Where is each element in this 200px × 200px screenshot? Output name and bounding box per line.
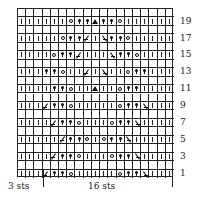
knit-icon: [79, 86, 80, 91]
chart-cell: [100, 110, 108, 118]
chart-cell: [75, 136, 83, 144]
chart-cell: [43, 127, 51, 135]
chart-cell: [133, 153, 141, 161]
chart-cell: [133, 34, 141, 42]
chart-cell: [141, 170, 149, 178]
edge-stitch-label: 3 sts: [8, 181, 29, 191]
chart-cell: [34, 136, 42, 144]
chart-cell: [67, 144, 75, 152]
chart-cell: [43, 77, 51, 85]
chart-cell: [166, 110, 174, 118]
chart-cell: [133, 9, 141, 17]
row-label-3: 3: [180, 151, 186, 161]
knit-icon: [103, 103, 104, 108]
chart-cell: [18, 144, 26, 152]
chart-cell: [141, 102, 149, 110]
yarn-over-icon: [69, 19, 73, 23]
bead-icon: [135, 103, 138, 108]
repeat-stitch-label: 16 sts: [88, 181, 115, 191]
double-decrease-icon: [92, 19, 98, 24]
chart-cell: [59, 153, 67, 161]
knit-icon: [169, 86, 170, 91]
chart-cell: [92, 136, 100, 144]
knit-icon: [38, 36, 39, 41]
chart-row-7: [18, 119, 172, 127]
k2tog-decrease-icon: [84, 69, 90, 75]
chart-cell: [117, 161, 125, 169]
yarn-over-icon: [118, 104, 122, 108]
chart-cell: [75, 127, 83, 135]
yarn-over-icon: [110, 121, 114, 125]
chart-cell: [141, 94, 149, 102]
chart-row-14: [18, 60, 172, 68]
chart-cell: [84, 94, 92, 102]
chart-cell: [141, 144, 149, 152]
chart-cell: [133, 60, 141, 68]
chart-row-9: [18, 102, 172, 110]
chart-cell: [125, 94, 133, 102]
knit-icon: [111, 69, 112, 74]
knit-icon: [46, 36, 47, 41]
chart-cell: [108, 68, 116, 76]
knit-icon: [38, 86, 39, 91]
chart-cell: [75, 68, 83, 76]
bead-icon: [135, 86, 138, 91]
chart-cell: [92, 94, 100, 102]
chart-cell: [26, 51, 34, 59]
knitting-chart-grid: [17, 8, 173, 177]
knit-icon: [46, 137, 47, 142]
chart-row-6: [18, 127, 172, 135]
chart-cell: [26, 119, 34, 127]
yarn-over-icon: [85, 137, 89, 141]
knit-icon: [62, 19, 63, 24]
chart-cell: [43, 26, 51, 34]
knit-icon: [29, 154, 30, 159]
chart-cell: [141, 17, 149, 25]
bead-icon: [78, 19, 81, 24]
chart-cell: [141, 43, 149, 51]
bead-icon: [119, 120, 122, 125]
chart-cell: [92, 60, 100, 68]
chart-row-17: [18, 34, 172, 42]
chart-cell: [108, 43, 116, 51]
yarn-over-icon: [126, 36, 130, 40]
chart-cell: [100, 34, 108, 42]
chart-cell: [166, 136, 174, 144]
bead-icon: [45, 69, 48, 74]
ssk-decrease-icon: [142, 103, 148, 109]
chart-row-15: [18, 51, 172, 59]
chart-cell: [75, 26, 83, 34]
chart-cell: [51, 170, 59, 178]
knit-icon: [144, 86, 145, 91]
knit-icon: [111, 103, 112, 108]
knit-icon: [136, 36, 137, 41]
ssk-decrease-icon: [142, 171, 148, 177]
chart-cell: [67, 94, 75, 102]
knit-icon: [46, 120, 47, 125]
chart-cell: [133, 17, 141, 25]
chart-cell: [84, 102, 92, 110]
chart-cell: [59, 43, 67, 51]
knit-icon: [152, 120, 153, 125]
chart-cell: [158, 144, 166, 152]
chart-cell: [67, 85, 75, 93]
chart-cell: [117, 110, 125, 118]
chart-cell: [125, 26, 133, 34]
chart-cell: [149, 34, 157, 42]
ssk-decrease-icon: [101, 69, 107, 75]
chart-cell: [92, 153, 100, 161]
chart-row-8: [18, 110, 172, 118]
chart-cell: [166, 43, 174, 51]
bead-icon: [78, 36, 81, 41]
chart-cell: [100, 161, 108, 169]
knit-icon: [21, 120, 22, 125]
chart-cell: [84, 34, 92, 42]
chart-cell: [166, 153, 174, 161]
chart-cell: [100, 17, 108, 25]
chart-cell: [92, 51, 100, 59]
chart-cell: [117, 119, 125, 127]
bead-icon: [127, 120, 130, 125]
chart-cell: [108, 153, 116, 161]
chart-cell: [100, 60, 108, 68]
bead-icon: [53, 103, 56, 108]
